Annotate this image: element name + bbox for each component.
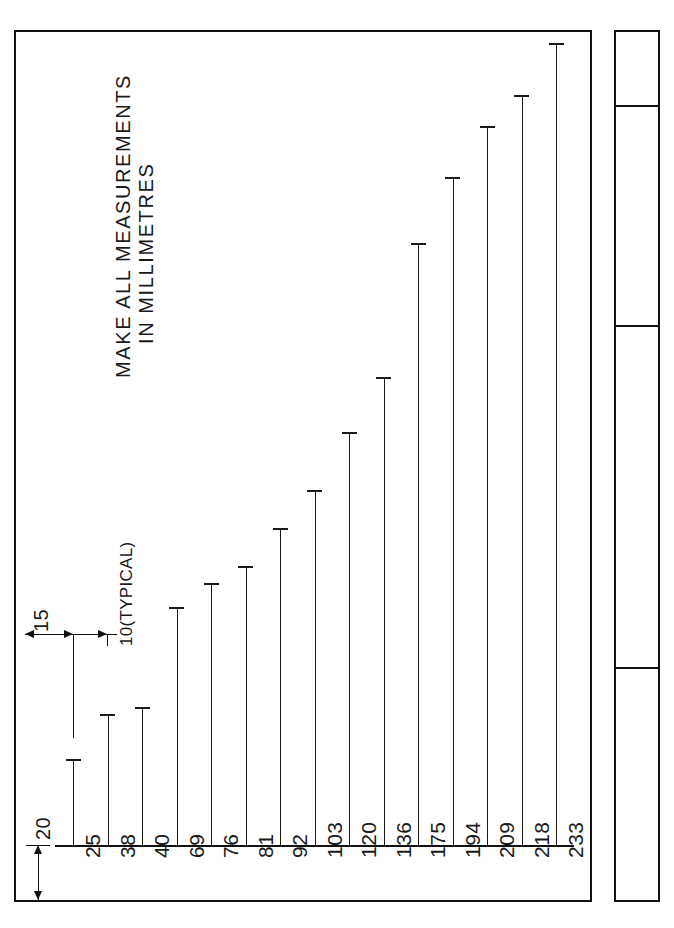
- dim-10-text: 10(TYPICAL): [117, 542, 137, 646]
- dim-20-arrow-down: [34, 891, 42, 900]
- note-line-1: MAKE ALL MEASUREMENTS: [112, 74, 135, 378]
- dim-20-arrow-up: [34, 845, 42, 854]
- dim-20-text: 20: [32, 817, 55, 840]
- title-block-cell-3[interactable]: [616, 325, 658, 667]
- dim-10-leader: [107, 634, 117, 646]
- title-block-cell-2[interactable]: [616, 105, 658, 325]
- dim-15-arrow-right: [64, 630, 73, 638]
- title-block-cell-4[interactable]: [616, 667, 658, 899]
- dim-20-tick: [26, 845, 50, 846]
- dim-15-ext-line: [73, 634, 74, 738]
- dim-10-arrow-right: [98, 630, 107, 638]
- drawing-page: 25384069768192103120136175194209218233 M…: [0, 0, 674, 928]
- drawing-frame: [14, 30, 592, 902]
- title-block: [614, 30, 660, 902]
- title-block-cell-1[interactable]: [616, 32, 658, 105]
- note-line-2: IN MILLIMETRES: [135, 74, 158, 344]
- drawing-note: MAKE ALL MEASUREMENTS IN MILLIMETRES: [112, 74, 158, 378]
- dim-15-text: 15: [30, 609, 53, 632]
- note-line-2-text: IN MILLIMETRES: [135, 163, 157, 344]
